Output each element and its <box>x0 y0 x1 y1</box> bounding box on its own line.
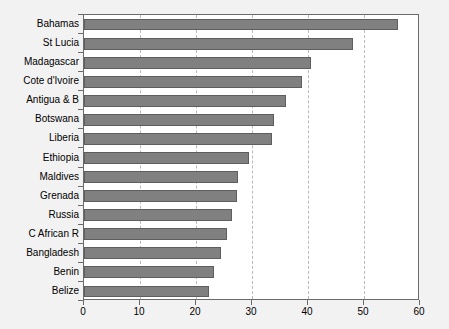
y-axis-tick-label: Madagascar <box>0 56 79 67</box>
y-axis-tick-label: C African R <box>0 228 79 239</box>
bar[interactable] <box>84 209 232 221</box>
y-axis-tick-label: Liberia <box>0 132 79 143</box>
bar[interactable] <box>84 57 311 69</box>
y-axis-tick-label: Bahamas <box>0 18 79 29</box>
bar-row <box>84 209 418 221</box>
bar[interactable] <box>84 19 398 31</box>
bar-row <box>84 266 418 278</box>
bar[interactable] <box>84 247 221 259</box>
bar-row <box>84 247 418 259</box>
bar[interactable] <box>84 38 353 50</box>
bar-row <box>84 133 418 145</box>
bar-row <box>84 57 418 69</box>
x-axis-tick-label: 20 <box>189 306 200 318</box>
plot-area <box>83 14 419 300</box>
y-axis-tick-label: Ethiopia <box>0 152 79 163</box>
x-axis-label-group: 0102030405060 <box>0 306 449 320</box>
y-axis-tick-label: Antigua & B <box>0 94 79 105</box>
bar-row <box>84 152 418 164</box>
bar[interactable] <box>84 133 272 145</box>
x-axis-tick <box>139 300 140 305</box>
x-axis-tick <box>251 300 252 305</box>
bar-chart: BahamasSt LuciaMadagascarCote d'IvoireAn… <box>0 0 449 329</box>
bar-row <box>84 76 418 88</box>
x-axis-tick-label: 0 <box>80 306 86 318</box>
x-axis-tick-label: 30 <box>245 306 256 318</box>
x-axis-tick-group <box>83 300 419 305</box>
x-axis-tick <box>195 300 196 305</box>
y-axis-label-group: BahamasSt LuciaMadagascarCote d'IvoireAn… <box>0 14 79 300</box>
bar-row <box>84 171 418 183</box>
bar-group <box>84 15 418 299</box>
bar-row <box>84 114 418 126</box>
bar-row <box>84 38 418 50</box>
bar-row <box>84 228 418 240</box>
bar-row <box>84 286 418 298</box>
y-axis-tick-label: Bangladesh <box>0 247 79 258</box>
y-axis-tick-label: Belize <box>0 285 79 296</box>
bar[interactable] <box>84 228 227 240</box>
bar[interactable] <box>84 190 237 202</box>
x-axis-tick <box>419 300 420 305</box>
x-axis-tick-label: 50 <box>357 306 368 318</box>
y-axis-tick-label: Maldives <box>0 171 79 182</box>
bar[interactable] <box>84 95 286 107</box>
bar[interactable] <box>84 266 214 278</box>
y-axis-tick-label: Benin <box>0 266 79 277</box>
x-axis-tick-label: 60 <box>413 306 424 318</box>
bar-row <box>84 19 418 31</box>
bar[interactable] <box>84 286 209 298</box>
y-axis-tick-label: Grenada <box>0 190 79 201</box>
bar[interactable] <box>84 152 249 164</box>
bar-row <box>84 95 418 107</box>
x-axis-tick <box>307 300 308 305</box>
bar[interactable] <box>84 114 274 126</box>
bar[interactable] <box>84 171 238 183</box>
y-axis-tick-label: St Lucia <box>0 37 79 48</box>
bar-row <box>84 190 418 202</box>
x-axis-tick-label: 10 <box>133 306 144 318</box>
y-axis-tick-label: Cote d'Ivoire <box>0 75 79 86</box>
x-axis-tick <box>83 300 84 305</box>
x-axis-tick <box>363 300 364 305</box>
y-axis-tick-label: Botswana <box>0 113 79 124</box>
y-axis-tick-label: Russia <box>0 209 79 220</box>
x-axis-tick-label: 40 <box>301 306 312 318</box>
bar[interactable] <box>84 76 302 88</box>
